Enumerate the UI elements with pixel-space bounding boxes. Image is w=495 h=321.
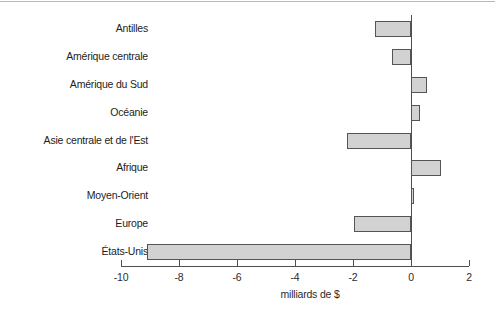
x-tick-label: -8: [159, 271, 199, 283]
bar: [411, 160, 441, 176]
bar: [411, 105, 420, 121]
x-axis-title-text: milliards de $: [280, 288, 339, 300]
x-tick: [295, 260, 296, 266]
bar-row: [121, 216, 469, 232]
bar: [392, 49, 411, 65]
x-tick: [121, 260, 122, 266]
x-tick: [411, 260, 412, 266]
bar-row: [121, 49, 469, 65]
bar: [354, 216, 411, 232]
bar: [411, 77, 427, 93]
x-axis-title: milliards de $: [0, 288, 495, 300]
x-tick-label: -10: [101, 271, 141, 283]
top-divider: [0, 1, 495, 2]
bar: [411, 188, 414, 204]
x-tick-label: 2: [449, 271, 489, 283]
x-axis-line: [121, 266, 469, 267]
bar-row: [121, 244, 469, 260]
x-tick-label: 0: [391, 271, 431, 283]
bar: [147, 244, 411, 260]
x-tick: [237, 260, 238, 266]
x-tick: [469, 260, 470, 266]
bar-row: [121, 160, 469, 176]
x-tick-label: -2: [333, 271, 373, 283]
x-tick: [353, 260, 354, 266]
bar: [347, 133, 411, 149]
bar-row: [121, 188, 469, 204]
x-tick-label: -4: [275, 271, 315, 283]
x-tick-label: -6: [217, 271, 257, 283]
bar-row: [121, 21, 469, 37]
bar-row: [121, 105, 469, 121]
bar-row: [121, 77, 469, 93]
bar-row: [121, 133, 469, 149]
bar: [375, 21, 411, 37]
plot-area: -10-8-6-4-202: [121, 15, 469, 266]
x-tick: [179, 260, 180, 266]
chart-figure: AntillesAmérique centraleAmérique du Sud…: [0, 0, 495, 321]
